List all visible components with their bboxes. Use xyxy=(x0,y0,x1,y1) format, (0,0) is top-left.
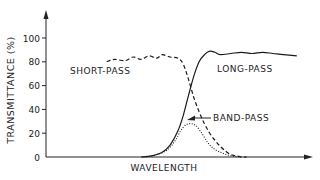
y-axis-label: TRANSMITTANCE (%) xyxy=(5,36,16,145)
annotation-band-pass: BAND-PASS xyxy=(213,113,269,123)
y-axis-arrow-icon xyxy=(44,10,49,19)
annotation-long-pass: LONG-PASS xyxy=(217,64,273,74)
x-axis-label: WAVELENGTH xyxy=(130,163,197,173)
x-axis-arrow-icon xyxy=(304,155,313,160)
band-pass-arrow-icon xyxy=(187,116,195,121)
y-tick-label: 100 xyxy=(23,34,40,44)
y-tick-label: 60 xyxy=(29,81,41,91)
transmittance-chart: 020406080100 TRANSMITTANCE (%) WAVELENGT… xyxy=(0,0,320,180)
y-tick-label: 20 xyxy=(29,129,41,139)
annotation-short-pass: SHORT-PASS xyxy=(70,66,131,76)
y-ticks: 020406080100 xyxy=(23,34,46,163)
y-tick-label: 80 xyxy=(29,57,41,67)
y-tick-label: 0 xyxy=(34,153,40,163)
axes xyxy=(44,10,314,160)
y-tick-label: 40 xyxy=(29,105,41,115)
